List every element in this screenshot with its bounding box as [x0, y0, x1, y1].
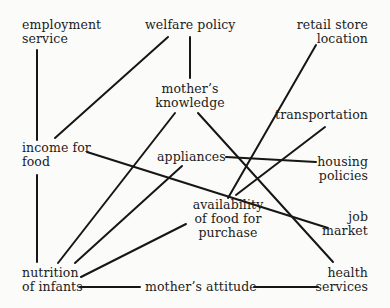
node-availability-of-food-for-purchase: availability of food for purchase [184, 198, 272, 240]
node-label-line: housing [317, 155, 368, 169]
node-label-line: knowledge [152, 96, 228, 110]
node-transportation: transportation [275, 108, 368, 122]
node-health-services: health services [316, 266, 368, 294]
node-label-line: retail store [297, 18, 368, 32]
node-label-line: service [22, 32, 101, 46]
node-label-line: nutrition [22, 266, 83, 280]
node-label-line: availability [184, 198, 272, 212]
node-label-line: of infants [22, 280, 83, 294]
node-retail-store-location: retail store location [297, 18, 368, 46]
node-label-line: policies [317, 169, 368, 183]
diagram-canvas: employment service welfare policy retail… [0, 0, 390, 308]
node-label-line: location [297, 32, 368, 46]
node-label-line: income for [22, 141, 91, 155]
node-welfare-policy: welfare policy [145, 18, 236, 32]
node-nutrition-of-infants: nutrition of infants [22, 266, 83, 294]
node-label-line: mother’s [152, 82, 228, 96]
node-label-line: employment [22, 18, 101, 32]
edge-line [81, 224, 186, 277]
node-label-line: welfare policy [145, 18, 236, 32]
node-income-for-food: income for food [22, 141, 91, 169]
node-label-line: appliances [157, 150, 226, 164]
node-mothers-attitude: mother’s attitude [145, 280, 257, 294]
node-employment-service: employment service [22, 18, 101, 46]
node-label-line: market [322, 224, 368, 238]
node-label-line: transportation [275, 108, 368, 122]
node-mothers-knowledge: mother’s knowledge [152, 82, 228, 110]
node-label-line: services [316, 280, 368, 294]
node-label-line: food [22, 155, 91, 169]
node-label-line: of food for [184, 212, 272, 226]
node-job-market: job market [322, 210, 368, 238]
node-housing-policies: housing policies [317, 155, 368, 183]
node-label-line: purchase [184, 226, 272, 240]
node-appliances: appliances [157, 150, 226, 164]
edge-line [75, 166, 182, 263]
node-label-line: mother’s attitude [145, 280, 257, 294]
node-label-line: job [322, 210, 368, 224]
node-label-line: health [316, 266, 368, 280]
